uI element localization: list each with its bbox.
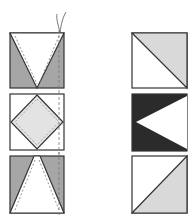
left-block-2 (10, 92, 64, 154)
left-block-1 (10, 12, 66, 92)
quilt-diagram (0, 0, 192, 224)
right-block-2 (132, 94, 187, 151)
right-block-3 (132, 156, 187, 213)
left-block-3 (10, 152, 64, 216)
right-block-1 (132, 33, 187, 88)
thread-tail-icon (57, 14, 60, 33)
